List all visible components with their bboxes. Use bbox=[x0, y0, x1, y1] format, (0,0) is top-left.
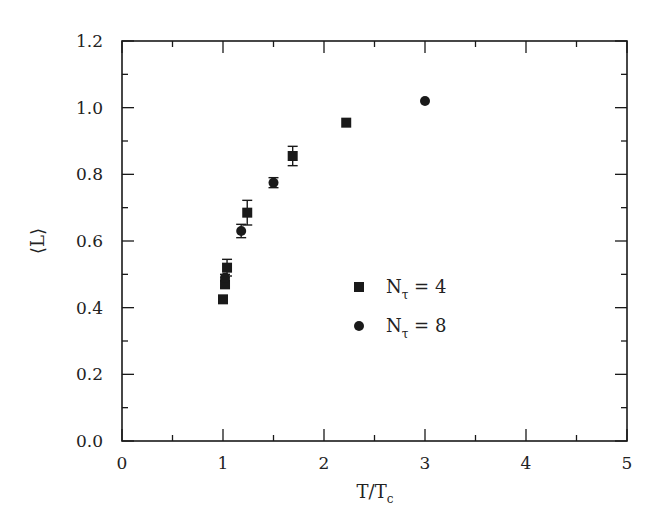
plot-border bbox=[122, 41, 627, 441]
y-tick-label: 0.8 bbox=[76, 164, 103, 184]
square-data-point bbox=[222, 263, 232, 273]
legend: Nτ = 4 Nτ = 8 bbox=[354, 276, 446, 341]
y-tick-label: 0.0 bbox=[76, 431, 103, 451]
x-tick-label: 2 bbox=[319, 453, 330, 473]
chart: 012345 0.00.20.40.60.81.01.2 T/Tc ⟨L⟩ Nτ… bbox=[0, 0, 660, 528]
y-axis-label: ⟨L⟩ bbox=[27, 228, 48, 254]
y-tick-label: 1.0 bbox=[76, 98, 103, 118]
x-tick-labels: 012345 bbox=[117, 453, 633, 473]
circle-data-point bbox=[420, 96, 430, 106]
square-marker-icon bbox=[354, 282, 364, 292]
circle-data-point bbox=[236, 226, 246, 236]
legend-label-ntau4: Nτ = 4 bbox=[386, 276, 446, 302]
square-data-point bbox=[218, 294, 228, 304]
x-tick-label: 1 bbox=[218, 453, 229, 473]
x-tick-label: 3 bbox=[420, 453, 431, 473]
plot-frame bbox=[122, 41, 627, 441]
circle-data-point bbox=[220, 273, 230, 283]
axis-ticks bbox=[122, 41, 627, 441]
legend-item-ntau8: Nτ = 8 bbox=[354, 315, 446, 341]
y-tick-label: 1.2 bbox=[76, 31, 103, 51]
y-tick-label: 0.2 bbox=[76, 364, 103, 384]
x-axis-label: T/Tc bbox=[357, 481, 394, 506]
x-tick-label: 4 bbox=[521, 453, 532, 473]
square-data-point bbox=[341, 118, 351, 128]
legend-item-ntau4: Nτ = 4 bbox=[354, 276, 446, 302]
circle-marker-icon bbox=[354, 321, 364, 331]
y-tick-labels: 0.00.20.40.60.81.01.2 bbox=[76, 31, 103, 451]
data-points bbox=[218, 96, 430, 304]
square-data-point bbox=[288, 151, 298, 161]
square-data-point bbox=[242, 208, 252, 218]
y-tick-label: 0.6 bbox=[76, 231, 103, 251]
x-tick-label: 0 bbox=[117, 453, 128, 473]
legend-label-ntau8: Nτ = 8 bbox=[386, 315, 446, 341]
y-tick-label: 0.4 bbox=[76, 298, 103, 318]
x-tick-label: 5 bbox=[622, 453, 633, 473]
circle-data-point bbox=[269, 178, 279, 188]
